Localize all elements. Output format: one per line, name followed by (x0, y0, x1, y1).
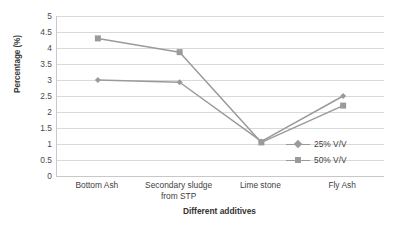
legend: 25% V/V 50% V/V (286, 136, 382, 168)
data-point-s0-3[interactable] (340, 93, 346, 99)
y-tick-label: 4.5 (26, 26, 52, 38)
data-point-s1-1[interactable] (177, 49, 183, 55)
legend-label-series-1: 50% V/V (314, 154, 347, 166)
y-tick-label: 5 (26, 10, 52, 22)
x-tick-label-3: Fly Ash (301, 180, 383, 191)
y-tick-label: 3.5 (26, 58, 52, 70)
y-axis-title: Percentage (%) (11, 9, 25, 119)
plot-area: 25% V/V 50% V/V (56, 16, 384, 177)
legend-marker-square-icon (286, 154, 310, 166)
y-tick-label: 3 (26, 74, 52, 86)
y-tick-label: 1 (26, 138, 52, 150)
series-line-0 (98, 80, 343, 141)
series-line-1 (98, 38, 343, 142)
data-point-s1-3[interactable] (340, 103, 346, 109)
data-point-s1-0[interactable] (95, 35, 101, 41)
y-axis-tick-labels: 54.543.532.521.510.50 (26, 10, 52, 182)
x-axis-title: Different additives (56, 206, 383, 216)
legend-label-series-0: 25% V/V (314, 138, 347, 150)
x-tick-label-1: Secondary sludgefrom STP (138, 180, 220, 202)
line-chart: Percentage (%) 54.543.532.521.510.50 25%… (0, 0, 396, 228)
y-tick-label: 0.5 (26, 154, 52, 166)
legend-item-series-0[interactable]: 25% V/V (286, 136, 382, 152)
x-tick-label-0: Bottom Ash (56, 180, 138, 191)
y-tick-label: 4 (26, 42, 52, 54)
data-point-s0-0[interactable] (95, 77, 101, 83)
y-tick-label: 2 (26, 106, 52, 118)
y-tick-label: 1.5 (26, 122, 52, 134)
y-tick-label: 2.5 (26, 90, 52, 102)
legend-marker-diamond-icon (286, 138, 310, 150)
x-tick-label-2: Lime stone (220, 180, 302, 191)
y-tick-label: 0 (26, 170, 52, 182)
legend-item-series-1[interactable]: 50% V/V (286, 152, 382, 168)
data-point-s1-2[interactable] (258, 139, 264, 145)
